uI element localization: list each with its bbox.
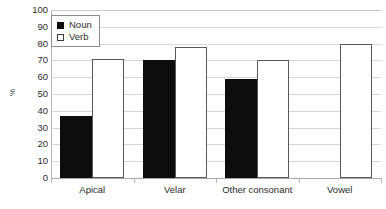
bar-group-other-consonant [216,10,299,178]
x-axis-label-vowel: Vowel [299,184,382,195]
chart-legend: NounVerb [51,15,100,47]
category-tick-4 [381,178,382,183]
y-axis-tick-50: 50 [20,89,48,99]
category-tick-2 [216,178,217,183]
bar-chart: % 1009080706050403020100 ApicalVelarOthe… [0,0,386,209]
bar-groups [51,10,381,178]
y-axis-tick-90: 90 [20,22,48,32]
bar-group-velar [134,10,217,178]
bar-noun-velar [143,60,175,178]
bars [216,10,299,178]
y-axis-tick-0: 0 [20,173,48,183]
plot-area [51,10,381,178]
bar-verb-other-consonant [257,60,289,178]
bar-verb-vowel [340,44,372,178]
y-axis-tick-100: 100 [20,5,48,15]
y-axis-tick-70: 70 [20,56,48,66]
x-axis-labels: ApicalVelarOther consonantVowel [51,184,381,195]
category-tick-1 [134,178,135,183]
y-axis-tick-labels: 1009080706050403020100 [20,0,48,209]
y-axis-tick-20: 20 [20,140,48,150]
y-axis-tick-80: 80 [20,39,48,49]
y-axis-tick-60: 60 [20,72,48,82]
y-axis-tick-40: 40 [20,106,48,116]
legend-item-label: Verb [69,32,89,42]
filled-square-icon [57,22,64,29]
bar-verb-velar [175,47,207,178]
open-square-icon [57,34,64,41]
x-axis-label-apical: Apical [51,184,134,195]
legend-item-verb: Verb [57,31,92,43]
x-axis-label-velar: Velar [134,184,217,195]
bar-verb-apical [92,59,124,178]
legend-item-label: Noun [69,20,92,30]
category-tick-3 [299,178,300,183]
bar-noun-apical [60,116,92,178]
bars [134,10,217,178]
bars [299,10,382,178]
y-axis-title: % [8,83,17,103]
y-axis-tick-30: 30 [20,123,48,133]
legend-item-noun: Noun [57,19,92,31]
category-tick-0 [51,178,52,183]
bar-group-vowel [299,10,382,178]
x-axis-label-other-consonant: Other consonant [216,184,299,195]
y-axis-tick-10: 10 [20,156,48,166]
bar-noun-other-consonant [225,79,257,178]
